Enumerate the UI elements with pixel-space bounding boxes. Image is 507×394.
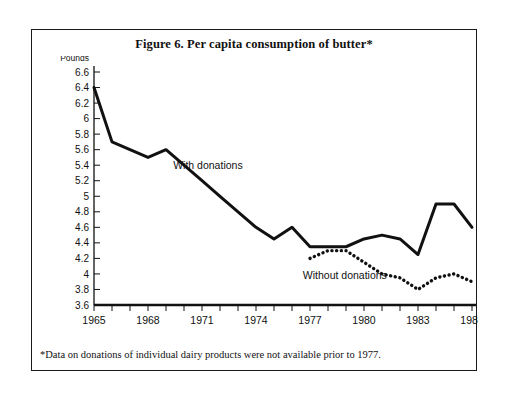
y-tick-label: 3.6: [75, 300, 89, 311]
y-tick-label: 4.8: [75, 206, 89, 217]
chart-plot-area: 6.66.46.265.85.65.45.254.84.64.44.243.83…: [32, 56, 478, 336]
y-tick-label: 4.6: [75, 222, 89, 233]
series-label: With donations: [173, 159, 242, 171]
x-tick-label: 1968: [136, 314, 160, 326]
figure-footnote: *Data on donations of individual dairy p…: [40, 349, 381, 360]
y-tick-label: 4.4: [75, 237, 89, 248]
x-tick-label: 1974: [244, 314, 268, 326]
x-axis: 19651968197119741977198019831986: [82, 305, 478, 326]
series-label: Without donations: [303, 269, 387, 281]
y-tick-label: 4: [83, 269, 89, 280]
y-tick-label: 4.2: [75, 253, 89, 264]
x-tick-label: 1980: [352, 314, 376, 326]
y-tick-label: 5.6: [75, 144, 89, 155]
y-tick-label: 5.4: [75, 160, 89, 171]
y-tick-label: 5.2: [75, 175, 89, 186]
line-chart: 6.66.46.265.85.65.45.254.84.64.44.243.83…: [32, 56, 478, 336]
data-series-group: [94, 88, 472, 290]
y-tick-label: 3.8: [75, 284, 89, 295]
y-axis-unit-label: Pounds: [60, 56, 89, 63]
y-tick-label: 5.8: [75, 129, 89, 140]
x-tick-label: 1986: [460, 314, 478, 326]
figure-container: Figure 6. Per capita consumption of butt…: [31, 29, 477, 371]
y-tick-label: 5: [83, 191, 89, 202]
figure-title: Figure 6. Per capita consumption of butt…: [32, 37, 476, 52]
x-tick-label: 1977: [298, 314, 322, 326]
y-tick-label: 6: [83, 113, 89, 124]
x-tick-label: 1971: [190, 314, 214, 326]
y-tick-label: 6.2: [75, 98, 89, 109]
y-axis: 6.66.46.265.85.65.45.254.84.64.44.243.83…: [60, 56, 100, 311]
y-tick-label: 6.6: [75, 67, 89, 78]
x-tick-label: 1965: [82, 314, 106, 326]
x-tick-label: 1983: [406, 314, 430, 326]
y-tick-label: 6.4: [75, 82, 89, 93]
series-line: [94, 88, 472, 255]
series-annotations: With donationsWithout donations: [173, 159, 387, 281]
